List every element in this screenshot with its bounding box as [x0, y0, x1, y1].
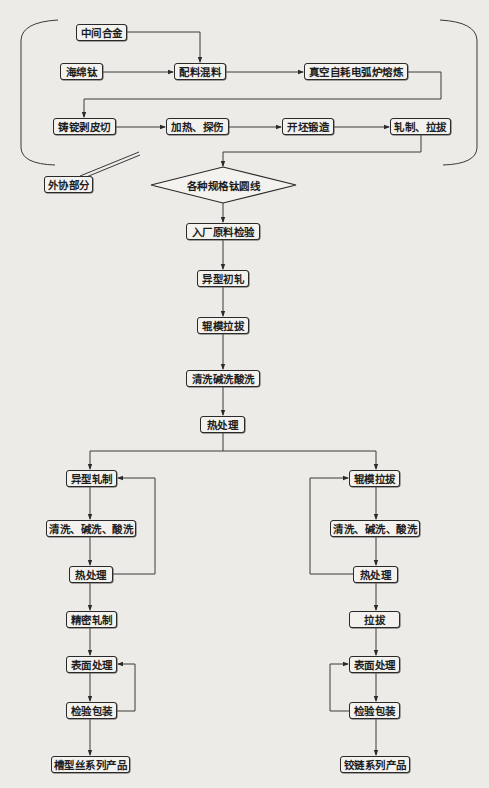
node-rolling-drawing: 轧制、拉拔 [390, 118, 451, 135]
node-heating-inspection: 加热、探伤 [166, 118, 229, 135]
node-incoming-inspection: 入厂原料检验 [186, 223, 260, 240]
node-heat-treatment: 热处理 [200, 416, 245, 433]
right-node-product: 铰链系列产品 [340, 756, 410, 773]
right-bracket [440, 20, 477, 165]
outsourced-label: 外协部分 [44, 176, 93, 193]
right-node-heat-treatment: 热处理 [353, 566, 398, 583]
right-node-surface-treatment: 表面处理 [349, 656, 400, 673]
left-node-surface-treatment: 表面处理 [66, 656, 117, 673]
node-batching-mixing: 配料混料 [174, 63, 226, 80]
node-ingot-peeling: 铸锭剥皮切 [53, 118, 116, 135]
left-node-heat-treatment: 热处理 [69, 566, 113, 583]
node-intermediate-alloy: 中间合金 [76, 24, 127, 41]
decision-label: 各种规格钛圆线 [151, 176, 296, 194]
node-profile-rough-rolling: 异型初轧 [197, 270, 249, 287]
node-roller-die-drawing: 辊模拉拔 [197, 317, 249, 334]
node-billet-forging: 开坯锻造 [282, 118, 334, 135]
right-node-roller-die-drawing: 辊模拉拔 [349, 470, 400, 487]
node-sponge-titanium: 海绵钛 [60, 63, 103, 80]
flowchart-canvas: 中间合金 海绵钛 配料混料 真空自耗电弧炉熔炼 铸锭剥皮切 加热、探伤 开坯锻造… [0, 0, 489, 788]
right-node-inspection-packing: 检验包装 [349, 702, 400, 719]
node-vacuum-arc-melting: 真空自耗电弧炉熔炼 [304, 63, 408, 80]
left-bracket [21, 20, 58, 165]
left-node-cleaning: 清洗、碱洗、酸洗 [46, 520, 136, 537]
left-node-profile-rolling: 异型轧制 [66, 470, 117, 487]
node-cleaning: 清洗碱洗酸洗 [186, 370, 260, 387]
right-node-cleaning: 清洗、碱洗、酸洗 [330, 520, 420, 537]
left-node-inspection-packing: 检验包装 [66, 702, 117, 719]
left-node-precision-rolling: 精密轧制 [66, 611, 117, 628]
left-node-product: 槽型丝系列产品 [51, 756, 130, 773]
right-node-drawing: 拉拔 [349, 611, 400, 628]
